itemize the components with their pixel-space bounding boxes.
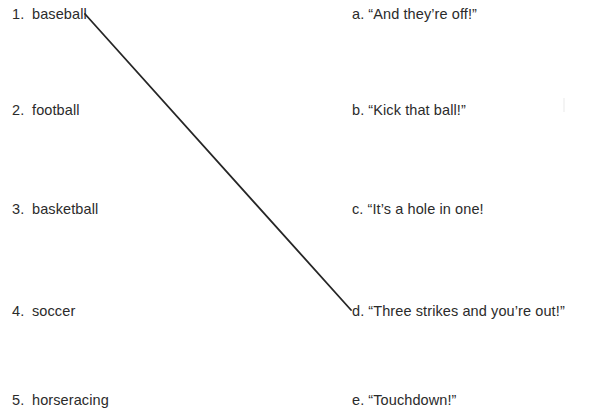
list-item-marker: 5. [12, 391, 32, 409]
list-item-marker: b. [352, 101, 364, 119]
list-item[interactable]: 5.horseracing [12, 391, 109, 409]
list-item-marker: 3. [12, 200, 32, 218]
list-item-label: “And they’re off!” [368, 5, 477, 23]
list-item-marker: 4. [12, 302, 32, 320]
list-item-label: horseracing [32, 391, 109, 409]
list-item[interactable]: b.“Kick that ball!” [352, 101, 466, 119]
list-item[interactable]: 1.baseball [12, 5, 87, 23]
list-item[interactable]: 3.basketball [12, 200, 98, 218]
list-item[interactable]: 4.soccer [12, 302, 75, 320]
list-item-marker: c. [352, 200, 363, 218]
list-item[interactable]: 2.football [12, 101, 80, 119]
list-item-label: baseball [32, 5, 87, 23]
list-item[interactable]: e.“Touchdown!” [352, 391, 457, 409]
list-item-label: basketball [32, 200, 98, 218]
list-item-marker: d. [352, 302, 364, 320]
scan-artifact [563, 98, 565, 112]
list-item-label: “Kick that ball!” [368, 101, 466, 119]
list-item-marker: a. [352, 5, 364, 23]
list-item[interactable]: c.“It’s a hole in one! [352, 200, 484, 218]
list-item-marker: 1. [12, 5, 32, 23]
list-item-label: football [32, 101, 80, 119]
phrases-column: a.“And they’re off!” b.“Kick that ball!”… [340, 0, 589, 405]
list-item-marker: 2. [12, 101, 32, 119]
list-item-label: soccer [32, 302, 75, 320]
list-item-marker: e. [352, 391, 364, 409]
list-item-label: “Three strikes and you’re out!” [368, 302, 565, 320]
list-item-label: “Touchdown!” [368, 391, 456, 409]
list-item[interactable]: d.“Three strikes and you’re out!” [352, 302, 565, 320]
list-item[interactable]: a.“And they’re off!” [352, 5, 477, 23]
list-item-label: “It’s a hole in one! [367, 200, 483, 218]
sports-column: 1.baseball 2.football 3.basketball 4.soc… [0, 0, 340, 405]
